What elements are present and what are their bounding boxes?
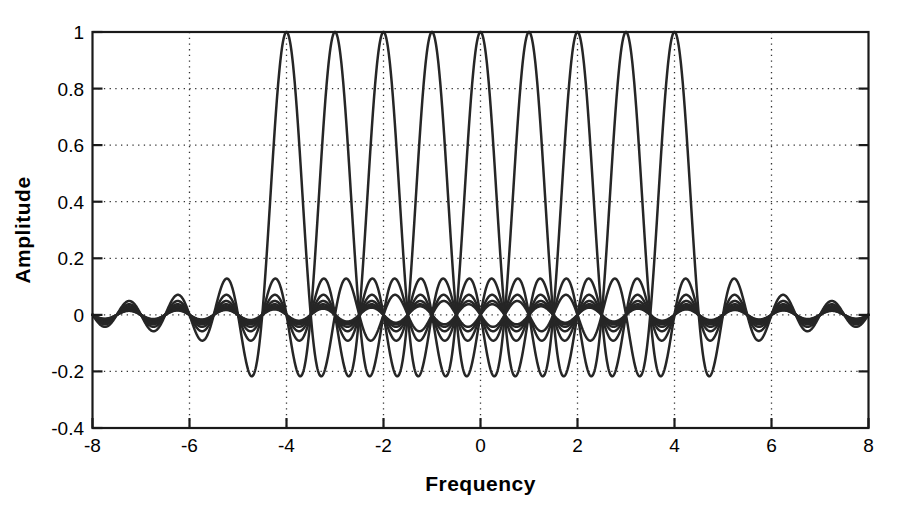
x-tick-label: -8	[84, 435, 101, 456]
figure-canvas: -8 -6 -4 -2 0 2 4 6 8 1 0.8 0.6 0.4 0.2 …	[0, 0, 899, 512]
y-axis-title: Amplitude	[11, 176, 34, 283]
x-axis-title: Frequency	[425, 472, 536, 495]
chart-background	[0, 0, 899, 512]
sinc-filter-bank-chart: -8 -6 -4 -2 0 2 4 6 8 1 0.8 0.6 0.4 0.2 …	[0, 0, 899, 512]
x-tick-label: 2	[572, 435, 583, 456]
x-tick-label: -6	[181, 435, 198, 456]
y-tick-label: -0.2	[51, 361, 84, 382]
y-tick-label: 0	[73, 305, 84, 326]
x-tick-label: -4	[278, 435, 295, 456]
y-tick-label: -0.4	[51, 418, 84, 439]
x-tick-label: 8	[863, 435, 874, 456]
y-tick-label: 0.4	[58, 192, 85, 213]
x-tick-label: -2	[375, 435, 392, 456]
y-tick-label: 0.6	[58, 135, 84, 156]
y-tick-label: 1	[73, 22, 84, 43]
y-tick-label: 0.2	[58, 248, 84, 269]
x-tick-label: 0	[475, 435, 486, 456]
y-tick-label: 0.8	[58, 79, 84, 100]
x-tick-label: 4	[669, 435, 680, 456]
x-tick-label: 6	[766, 435, 777, 456]
